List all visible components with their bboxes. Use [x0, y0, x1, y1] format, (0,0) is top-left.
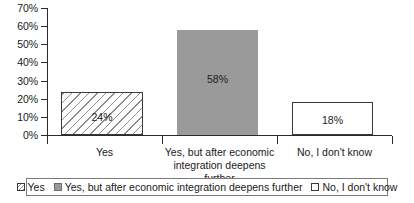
legend-item-no-dont-know[interactable]: No, I don't know [311, 182, 397, 193]
x-tick-mark [47, 136, 48, 144]
bar-yes[interactable]: 24% [61, 92, 143, 136]
legend-swatch-hatch-icon [17, 183, 25, 191]
bar-value-label: 58% [178, 73, 257, 85]
x-tick-mark [162, 136, 163, 144]
y-tick-label: 0% [23, 129, 38, 141]
legend-label: Yes [28, 182, 45, 193]
x-label-no-dont-know: No, I don't know [277, 146, 392, 159]
y-axis-tick-labels: 70% 60% 50% 40% 30% 20% 10% 0% [0, 8, 41, 135]
chart-legend: Yes Yes, but after economic integration … [26, 178, 388, 196]
legend-label: Yes, but after economic integration deep… [65, 182, 303, 193]
x-label-line: No, I don't know [277, 146, 392, 159]
bar-value-label: 18% [293, 114, 372, 126]
bars-layer: 24% 58% 18% [47, 8, 392, 135]
legend-swatch-solid-icon [54, 183, 62, 191]
legend-item-yes-after-integration[interactable]: Yes, but after economic integration deep… [54, 182, 303, 193]
x-label-line: Yes [47, 146, 162, 159]
y-tick-label: 20% [17, 93, 38, 105]
x-tick-mark [277, 136, 278, 144]
x-axis-category-labels: Yes Yes, but after economic integration … [47, 146, 392, 180]
y-tick-label: 10% [17, 111, 38, 123]
y-tick-label: 50% [17, 38, 38, 50]
legend-item-yes[interactable]: Yes [17, 182, 45, 193]
y-tick-label: 40% [17, 56, 38, 68]
x-label-line: Yes, but after economic [162, 146, 277, 159]
bar-value-label: 24% [62, 111, 142, 123]
x-axis-line [47, 135, 392, 136]
legend-label: No, I don't know [322, 182, 397, 193]
x-label-yes: Yes [47, 146, 162, 159]
y-tick-label: 60% [17, 20, 38, 32]
bar-yes-after-integration[interactable]: 58% [177, 30, 258, 135]
x-tick-mark [392, 136, 393, 144]
plot-area: 70% 60% 50% 40% 30% 20% 10% 0% 24% 5 [0, 0, 414, 170]
y-tick-label: 70% [17, 2, 38, 14]
bar-chart: 70% 60% 50% 40% 30% 20% 10% 0% 24% 5 [0, 0, 414, 203]
bar-no-dont-know[interactable]: 18% [292, 102, 373, 135]
legend-swatch-open-icon [311, 183, 319, 191]
y-tick-label: 30% [17, 75, 38, 87]
